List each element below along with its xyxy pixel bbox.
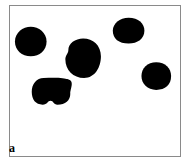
blob-right (141, 62, 171, 90)
panel-frame-border (9, 5, 181, 157)
panel-label-a: a (9, 142, 15, 154)
blob-center (65, 39, 101, 78)
figure-panel: a (0, 0, 190, 163)
binary-blob-image (10, 6, 180, 156)
blob-bottom-left (32, 78, 72, 105)
blob-top-left (15, 27, 47, 57)
blob-top-right (113, 18, 145, 44)
